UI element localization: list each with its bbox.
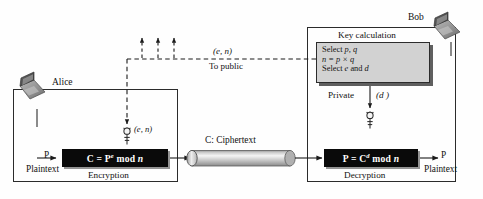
decryption-formula: P = Cd mod n: [343, 152, 399, 164]
ciphertext-pipe-shape: [187, 150, 295, 166]
alice-laptop-icon: [20, 72, 45, 99]
bob-key-icon: [367, 111, 374, 128]
alice-key-icon: [124, 127, 131, 145]
key-calculation-panel: Select p, q n = p × q Select e and d: [316, 42, 430, 83]
public-key-label: (e, n): [213, 47, 232, 56]
bob-output-label: Plaintext: [424, 165, 457, 174]
alice-key-label: (e, n): [134, 125, 152, 134]
ciphertext-label: C: Ciphertext: [205, 136, 256, 145]
key-calculation-row-1: Select p, q: [322, 45, 424, 55]
private-key-value: (d ): [376, 91, 389, 100]
key-calculation-title: Key calculation: [338, 31, 396, 40]
alice-label: Alice: [52, 78, 73, 88]
encryption-formula: C = Pe mod n: [87, 152, 144, 164]
bob-laptop-icon: [434, 12, 460, 39]
private-label: Private: [328, 91, 354, 100]
decryption-formula-box: P = Cd mod n: [324, 149, 418, 167]
diagram-vector-layer: [0, 0, 483, 199]
to-public-label: To public: [209, 62, 243, 71]
key-calculation-row-2: n = p × q: [322, 55, 424, 65]
bob-label: Bob: [408, 13, 424, 23]
bob-output-symbol: P: [441, 151, 446, 160]
alice-input-label: Plaintext: [26, 165, 59, 174]
encryption-process-label: Encryption: [88, 171, 129, 180]
key-calculation-row-3: Select e and d: [322, 64, 424, 74]
alice-input-symbol: P: [44, 151, 49, 160]
decryption-process-label: Decryption: [344, 171, 385, 180]
encryption-formula-box: C = Pe mod n: [62, 149, 168, 167]
rsa-diagram-canvas: Alice Bob (e, n) To public (e, n) P Plai…: [0, 0, 483, 199]
